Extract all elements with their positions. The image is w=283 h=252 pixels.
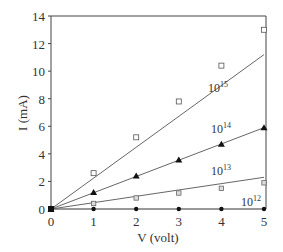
square-marker bbox=[219, 63, 224, 68]
y-axis-label: I (mA) bbox=[15, 95, 30, 131]
square-marker bbox=[134, 135, 139, 140]
dot-marker bbox=[177, 207, 181, 211]
series-label: 1014 bbox=[211, 121, 231, 136]
x-tick-label: 1 bbox=[90, 214, 97, 229]
y-tick-label: 0 bbox=[39, 202, 46, 217]
dot-marker bbox=[219, 207, 223, 211]
hatched-square-marker bbox=[262, 181, 266, 185]
x-tick-label: 4 bbox=[218, 214, 225, 229]
x-axis-label: V (volt) bbox=[137, 230, 178, 245]
y-tick-label: 6 bbox=[39, 119, 46, 134]
hatched-square-marker bbox=[219, 186, 223, 190]
series-label: 1015 bbox=[208, 80, 228, 95]
x-axis-ticks: 012345 bbox=[48, 214, 268, 229]
dot-marker bbox=[262, 207, 266, 211]
fit-line bbox=[51, 128, 264, 209]
hatched-square-marker bbox=[91, 201, 95, 205]
dot-marker bbox=[134, 207, 138, 211]
series-label: 1013 bbox=[211, 163, 231, 178]
y-tick-label: 14 bbox=[32, 9, 46, 24]
square-marker bbox=[176, 99, 181, 104]
y-tick-label: 4 bbox=[39, 147, 46, 162]
hatched-square-marker bbox=[134, 196, 138, 200]
series-labels: 1015101410131012 bbox=[208, 80, 261, 209]
x-tick-label: 2 bbox=[133, 214, 140, 229]
y-tick-label: 10 bbox=[32, 64, 45, 79]
origin-marker bbox=[48, 206, 54, 212]
triangle-marker bbox=[218, 141, 225, 147]
dot-marker bbox=[91, 207, 95, 211]
square-marker bbox=[262, 27, 267, 32]
fit-lines bbox=[51, 55, 264, 209]
x-tick-label: 3 bbox=[176, 214, 183, 229]
y-axis-ticks: 02468101214 bbox=[32, 9, 51, 217]
fit-line bbox=[51, 177, 264, 209]
plot-frame bbox=[51, 16, 266, 209]
y-tick-label: 12 bbox=[32, 37, 45, 52]
x-tick-label: 5 bbox=[261, 214, 268, 229]
hatched-square-marker bbox=[177, 191, 181, 195]
y-tick-label: 8 bbox=[39, 92, 46, 107]
series-label: 1012 bbox=[241, 194, 261, 209]
square-marker bbox=[91, 171, 96, 176]
x-tick-label: 0 bbox=[48, 214, 55, 229]
iv-chart: 02468101214 012345 1015101410131012 V (v… bbox=[0, 0, 283, 252]
fit-line bbox=[51, 55, 264, 209]
data-markers bbox=[48, 27, 268, 212]
y-tick-label: 2 bbox=[39, 174, 46, 189]
